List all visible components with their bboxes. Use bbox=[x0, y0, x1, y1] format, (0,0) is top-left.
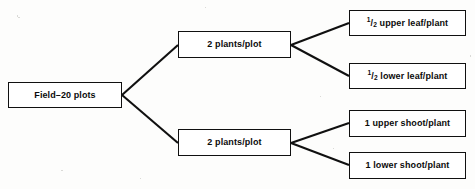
node-label-text: upper leaf/plant bbox=[377, 18, 448, 28]
node-label: 1/2 upper leaf/plant bbox=[367, 19, 448, 28]
edge-mid-1-to-leaf-2 bbox=[291, 45, 349, 76]
node-label: 2 plants/plot bbox=[207, 138, 261, 147]
node-half-upper-leaf-per-plant: 1/2 upper leaf/plant bbox=[349, 10, 466, 36]
edge-root-to-mid-1 bbox=[122, 45, 178, 95]
fraction-one-half: 1/2 bbox=[367, 19, 377, 28]
node-label: 1 upper shoot/plant bbox=[365, 119, 450, 128]
node-plants-per-plot-lower: 2 plants/plot bbox=[178, 129, 291, 156]
node-label: 1/2 lower leaf/plant bbox=[368, 72, 448, 81]
node-one-upper-shoot-per-plant: 1 upper shoot/plant bbox=[349, 110, 466, 137]
node-one-lower-shoot-per-plant: 1 lower shoot/plant bbox=[349, 152, 466, 179]
node-half-lower-leaf-per-plant: 1/2 lower leaf/plant bbox=[349, 63, 466, 89]
node-label-text: lower leaf/plant bbox=[378, 71, 448, 81]
node-label: Field–20 plots bbox=[34, 91, 95, 100]
fraction-one-half: 1/2 bbox=[368, 72, 378, 81]
node-label: 1 lower shoot/plant bbox=[366, 161, 450, 170]
edge-mid-1-to-leaf-1 bbox=[291, 23, 349, 45]
edge-root-to-mid-2 bbox=[122, 95, 178, 143]
sampling-tree-diagram: Field–20 plots 2 plants/plot 2 plants/pl… bbox=[0, 0, 475, 189]
node-field-20-plots: Field–20 plots bbox=[8, 82, 122, 108]
node-label: 2 plants/plot bbox=[207, 40, 261, 49]
edge-mid-2-to-leaf-4 bbox=[291, 143, 349, 165]
node-plants-per-plot-upper: 2 plants/plot bbox=[178, 31, 291, 58]
edge-mid-2-to-leaf-3 bbox=[291, 123, 349, 143]
